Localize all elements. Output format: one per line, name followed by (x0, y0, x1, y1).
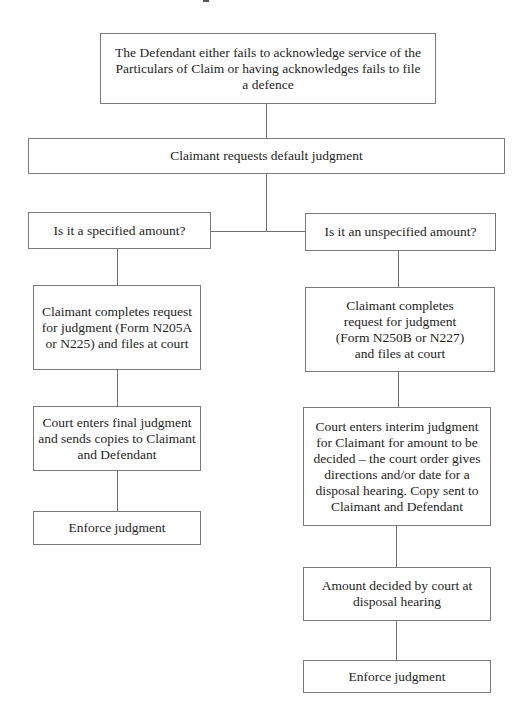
connector-interim-to-amount (396, 525, 397, 567)
connector-specified-form-to-final (117, 369, 118, 406)
node-specified-form: Claimant completes request for judgment … (33, 285, 201, 370)
node-interim-judgment: Court enters interim judgment for Claima… (303, 407, 491, 526)
node-specified-enforce-judgment: Enforce judgment (33, 511, 201, 545)
connector-unspecified-form-to-interim (398, 371, 399, 407)
node-final-judgment: Court enters final judgment and sends co… (33, 406, 201, 471)
connector-amount-to-enforce (396, 620, 397, 660)
node-request-default-judgment: Claimant requests default judgment (28, 138, 505, 174)
connector-final-to-enforce (117, 470, 118, 511)
node-unspecified-form: Claimant completes request for judgment … (305, 287, 495, 372)
node-specified-question: Is it a specified amount? (28, 212, 211, 249)
node-unspecified-enforce-judgment: Enforce judgment (303, 660, 491, 693)
connector-specified-question-to-form (117, 248, 118, 285)
node-unspecified-question: Is it an unspecified amount? (305, 213, 496, 251)
node-amount-decided: Amount decided by court at disposal hear… (303, 567, 491, 621)
connector-unspecified-question-to-form (398, 250, 399, 287)
connector-request-down (266, 173, 267, 231)
connector-branch-horizontal (210, 231, 305, 232)
node-start: The Defendant either fails to acknowledg… (100, 33, 436, 104)
cropped-heading-fragment (203, 0, 209, 2)
connector-start-to-request (266, 103, 267, 138)
